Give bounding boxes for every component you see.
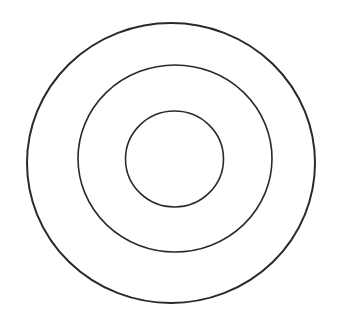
background (0, 0, 338, 315)
concentric-circles-diagram (0, 0, 338, 315)
